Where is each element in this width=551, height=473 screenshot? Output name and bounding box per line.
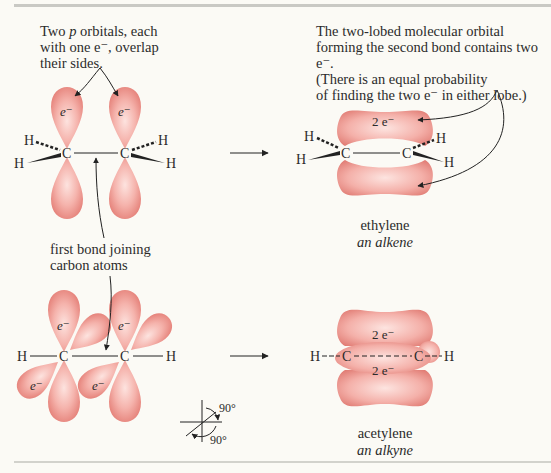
electron-label: e⁻ (30, 378, 43, 393)
electron-label: e⁻ (92, 378, 105, 393)
carbon-atom: C (402, 146, 411, 161)
two-electron-label: 2 e⁻ (372, 114, 394, 129)
hydrogen-atom: H (14, 156, 24, 171)
acetylene-p-orbitals: e⁻ e⁻ e⁻ e⁻ C C H H (11, 276, 177, 422)
pointer-arrow (96, 158, 104, 238)
hydrogen-atom: H (310, 349, 320, 364)
hydrogen-atom: H (436, 131, 446, 146)
pointer-arrow (100, 68, 118, 96)
ethylene-p-orbitals: e⁻ e⁻ C C H H H H (14, 68, 176, 238)
hydrogen-atom: H (158, 133, 168, 148)
electron-label: e⁻ (118, 318, 131, 333)
carbon-atom: C (120, 146, 129, 161)
p-orbital-lobe (51, 157, 83, 219)
ethylene-pi-bond: 2 e⁻ C C H H H H (296, 90, 504, 196)
electron-label: e⁻ (57, 318, 70, 333)
hydrogen-atom: H (444, 349, 454, 364)
hydrogen-atom: H (166, 349, 176, 364)
carbon-atom: C (120, 349, 129, 364)
carbon-atom: C (342, 349, 351, 364)
carbon-atom: C (414, 349, 423, 364)
wedge-bond (131, 153, 165, 163)
hydrogen-atom: H (17, 349, 27, 364)
wedge-bond (308, 151, 340, 160)
electron-label: e⁻ (60, 104, 73, 119)
hashed-bond (317, 138, 339, 148)
angle-label: 90° (219, 401, 236, 415)
two-electron-label: 2 e⁻ (372, 327, 394, 342)
electron-label: e⁻ (118, 104, 131, 119)
hashed-bond (132, 142, 156, 150)
wedge-bond (413, 151, 444, 162)
carbon-atom: C (341, 146, 350, 161)
hydrogen-atom: H (296, 152, 306, 167)
pi-orbital-lower-lobe (337, 160, 433, 196)
ninety-degree-angle-icon: 90° 90° (180, 400, 236, 447)
carbon-atom: C (62, 146, 71, 161)
p-orbital-lobe (109, 157, 141, 219)
two-electron-label: 2 e⁻ (372, 363, 394, 378)
angle-label: 90° (210, 433, 227, 447)
orbital-diagram: e⁻ e⁻ C C H H H H 2 e⁻ C C H H H H (0, 0, 551, 473)
hydrogen-atom: H (444, 155, 454, 170)
carbon-atom: C (59, 349, 68, 364)
hydrogen-atom: H (304, 129, 314, 144)
pointer-arrow (75, 68, 100, 96)
acetylene-pi-bonds: 2 e⁻ 2 e⁻ H C C H (310, 310, 454, 407)
hydrogen-atom: H (24, 133, 34, 148)
hydrogen-atom: H (166, 156, 176, 171)
hashed-bond (36, 142, 60, 150)
pointer-arrow (106, 276, 111, 350)
pointer-arrow (418, 90, 497, 120)
wedge-bond (27, 153, 61, 163)
